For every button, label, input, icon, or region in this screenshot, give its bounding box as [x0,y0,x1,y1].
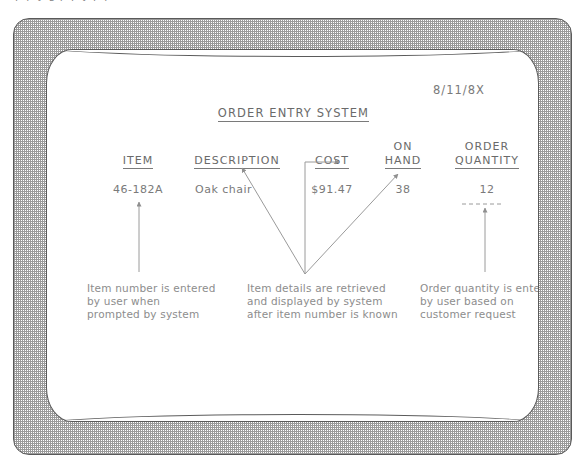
value-item: 46-182A [99,183,177,196]
value-on-hand: 38 [371,183,435,196]
date-label: 8/11/8X [433,83,485,97]
value-cost: $91.47 [297,183,367,196]
top-text-fragment: a p p y g p p y p p [0,0,584,10]
column-header-on-hand-line1-label: ON [394,140,413,153]
column-header-order-quantity-line2: QUANTITY [443,154,531,167]
page-title: ORDER ENTRY SYSTEM [47,106,539,120]
column-header-cost: COST [297,154,367,167]
column-header-order-quantity-line1: ORDER [443,140,531,153]
page-title-text: ORDER ENTRY SYSTEM [218,106,369,122]
column-header-on-hand-line2-label: HAND [385,154,422,169]
screen-content: 8/11/8X ORDER ENTRY SYSTEM ITEM 46-182A … [47,50,538,421]
column-header-on-hand-line2: HAND [371,154,435,167]
column-header-item: ITEM [99,154,177,167]
arrow-to-cost [305,162,339,274]
top-text-fragment-label: a p p y g p p y p p [4,0,112,2]
crt-monitor: 8/11/8X ORDER ENTRY SYSTEM ITEM 46-182A … [13,18,572,455]
column-header-cost-label: COST [315,154,349,169]
monitor-screen: 8/11/8X ORDER ENTRY SYSTEM ITEM 46-182A … [46,49,539,422]
column-header-item-label: ITEM [123,154,153,169]
annotation-item-details: Item details are retrieved and displayed… [247,282,427,321]
column-header-on-hand-line1: ON [371,140,435,153]
value-description: Oak chair [187,183,295,196]
value-order-quantity: 12 [443,183,531,196]
column-header-description-label: DESCRIPTION [194,154,279,169]
column-header-order-quantity-line2-label: QUANTITY [455,154,519,169]
annotation-item-number: Item number is entered by user when prom… [87,282,237,321]
column-header-order-quantity-line1-label: ORDER [465,140,509,153]
column-header-description: DESCRIPTION [187,154,287,167]
annotation-order-quantity: Order quantity is entered by user based … [420,282,539,321]
